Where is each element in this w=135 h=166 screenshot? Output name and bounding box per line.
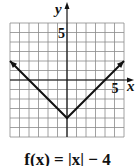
y-axis-label: y — [53, 1, 62, 17]
graph: y x 5 5 — [0, 0, 135, 150]
y-tick-label: 5 — [58, 26, 65, 41]
function-caption: f(x) = |x| − 4 — [0, 150, 135, 166]
x-axis-label: x — [126, 78, 135, 94]
x-tick-label: 5 — [112, 81, 119, 96]
